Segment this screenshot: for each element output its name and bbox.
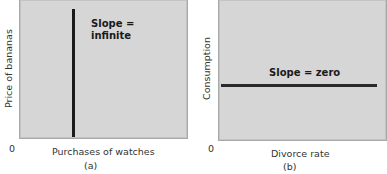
annotation-line-2: infinite xyxy=(91,30,134,42)
horizontal-line xyxy=(221,84,377,87)
caption-a: (a) xyxy=(84,160,97,171)
annotation-line-1: Slope = xyxy=(91,18,134,30)
y-axis-label-b: Consumption xyxy=(201,37,212,100)
slope-infinite-annotation: Slope = infinite xyxy=(91,18,134,42)
origin-label-a: 0 xyxy=(9,143,15,154)
chart-b-plot-area: Slope = zero xyxy=(218,0,387,141)
slope-zero-annotation: Slope = zero xyxy=(269,67,340,79)
origin-label-b: 0 xyxy=(208,143,214,154)
x-axis-label-b: Divorce rate xyxy=(271,148,329,159)
x-axis-label-a: Purchases of watches xyxy=(52,146,155,157)
vertical-line xyxy=(72,9,75,137)
chart-a-plot-area: Slope = infinite xyxy=(19,0,188,139)
y-axis-label-a: Price of bananas xyxy=(3,29,14,108)
caption-b: (b) xyxy=(283,161,296,172)
